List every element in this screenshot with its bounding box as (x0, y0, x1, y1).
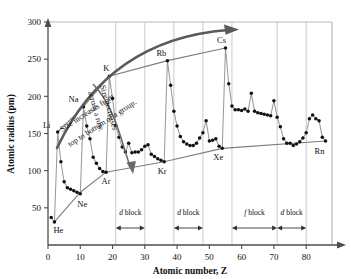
x-tick-label: 40 (173, 252, 183, 262)
data-point (75, 190, 79, 194)
data-point (295, 142, 299, 146)
data-point (282, 137, 286, 141)
x-tick-label: 80 (302, 252, 312, 262)
data-point (230, 104, 234, 108)
data-point (301, 136, 305, 140)
atomic-radius-chart: 50100150200250300 01020304050607080 HeLi… (0, 0, 351, 279)
block-marker: f block (232, 208, 277, 231)
data-point (130, 151, 134, 155)
y-tick-label: 150 (28, 129, 42, 139)
data-point (253, 109, 257, 113)
data-point (208, 139, 212, 143)
element-label-ar: Ar (102, 176, 111, 186)
data-point (159, 159, 163, 163)
block-label: d block (119, 208, 142, 217)
element-label-xe: Xe (213, 152, 223, 162)
element-label-rn: Rn (315, 146, 326, 156)
data-point (69, 188, 73, 192)
data-point (53, 220, 57, 224)
data-point (166, 59, 170, 63)
data-point (146, 143, 150, 147)
data-point (62, 180, 66, 184)
data-point (79, 192, 83, 196)
data-point (246, 109, 250, 113)
data-point (88, 137, 92, 141)
block-marker: d block (174, 208, 203, 231)
data-point (104, 170, 108, 174)
data-point (227, 82, 231, 86)
element-label-na: Na (69, 94, 79, 104)
data-point (204, 119, 208, 123)
data-point (133, 150, 137, 154)
data-point (256, 111, 260, 115)
data-point (272, 99, 276, 103)
data-point (91, 156, 95, 160)
x-tick-label: 10 (76, 252, 86, 262)
data-point (179, 135, 183, 139)
data-point (259, 112, 263, 116)
data-point (243, 107, 247, 111)
data-point (324, 139, 328, 143)
data-point (201, 131, 205, 135)
y-tick-label: 250 (28, 54, 42, 64)
data-point (285, 141, 289, 145)
data-point (95, 161, 99, 165)
data-point (156, 157, 160, 161)
y-tick-label: 200 (28, 92, 42, 102)
data-point (279, 125, 283, 129)
block-markers: d blockd blockf blockd block (116, 208, 306, 231)
x-tick-label: 50 (205, 252, 215, 262)
element-label-kr: Kr (158, 166, 167, 176)
block-marker: d block (116, 208, 145, 231)
data-point (288, 141, 292, 145)
data-point (101, 170, 105, 174)
x-tick-label: 70 (269, 252, 279, 262)
data-point (140, 148, 144, 152)
data-point (304, 131, 308, 135)
data-point (211, 138, 215, 142)
data-point (214, 137, 218, 141)
data-point (175, 124, 179, 128)
element-label-k: K (103, 63, 110, 73)
data-point (98, 167, 102, 171)
group-trend-annotation: Size increases from top to bottom of a g… (57, 24, 239, 148)
block-label: f block (244, 208, 265, 217)
block-label: d block (177, 208, 200, 217)
data-point (314, 117, 318, 121)
data-point (240, 109, 244, 113)
data-point (317, 119, 321, 123)
block-label: d block (281, 208, 304, 217)
data-point (59, 160, 63, 164)
data-point (188, 144, 192, 148)
data-point (195, 141, 199, 145)
data-point (182, 140, 186, 144)
block-boundary-gridlines (116, 22, 306, 245)
data-point (127, 141, 131, 145)
y-axis (45, 18, 52, 245)
data-point (266, 113, 270, 117)
x-axis-ticks: 01020304050607080 (46, 245, 311, 262)
data-point (49, 216, 53, 220)
element-label-he: He (53, 225, 63, 235)
data-point (191, 144, 195, 148)
data-point (221, 147, 225, 151)
data-point (308, 117, 312, 121)
data-point (185, 142, 189, 146)
data-point (224, 46, 228, 50)
data-point (153, 155, 157, 159)
x-tick-label: 20 (108, 252, 118, 262)
y-axis-title: Atomic radius (pm) (6, 94, 17, 174)
data-point (198, 136, 202, 140)
element-label-ne: Ne (77, 199, 87, 209)
element-label-rb: Rb (156, 48, 166, 58)
data-point (72, 189, 76, 193)
x-tick-label: 0 (46, 252, 51, 262)
x-axis-title: Atomic number, Z (153, 266, 227, 276)
x-axis (48, 242, 346, 249)
data-point (292, 144, 296, 148)
atomic-radius-line (51, 48, 325, 222)
data-point (169, 83, 173, 87)
data-point (162, 160, 166, 164)
data-point (150, 153, 154, 157)
data-point (143, 144, 147, 148)
